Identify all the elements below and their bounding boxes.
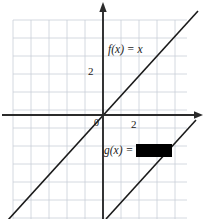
- origin-label: 0: [94, 118, 99, 128]
- coordinate-plane: [0, 0, 205, 219]
- function-line-g: [106, 120, 196, 219]
- graph-figure: f(x) = x g(x) = 2 2 0: [0, 0, 205, 219]
- x-axis-arrow: [194, 111, 203, 118]
- x-axis-tick-label-2: 2: [131, 119, 137, 130]
- redaction-box: [136, 144, 172, 157]
- function-label-g: g(x) =: [104, 144, 172, 157]
- function-label-g-text: g(x) =: [104, 145, 133, 157]
- y-axis: [99, 2, 106, 219]
- function-label-f: f(x) = x: [108, 44, 143, 56]
- y-axis-tick-label-2: 2: [88, 66, 94, 77]
- y-axis-arrow: [99, 2, 106, 12]
